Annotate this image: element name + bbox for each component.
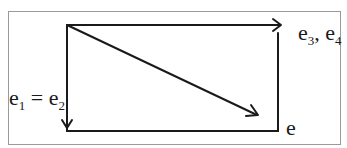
label-e3-e4: e3, e4	[298, 22, 342, 44]
label-e4-base: e	[325, 20, 335, 45]
diagonal-arrow-line	[67, 25, 257, 115]
label-e: e	[286, 117, 296, 139]
label-e1-base: e	[9, 85, 19, 110]
label-e4-sub: 4	[335, 33, 342, 48]
label-e-base: e	[286, 115, 296, 140]
label-e2-sub: 2	[58, 98, 65, 113]
label-separator: ,	[314, 20, 325, 45]
label-e3-sub: 3	[308, 33, 315, 48]
label-e1-equals-e2: e1 = e2	[9, 87, 65, 109]
label-e3-base: e	[298, 20, 308, 45]
label-e1-sub: 1	[19, 98, 26, 113]
label-e2-base: e	[49, 85, 59, 110]
label-equals: =	[25, 85, 48, 110]
